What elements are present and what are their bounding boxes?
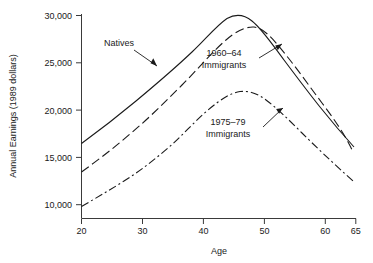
annotation-imm-1975-79-label-line2: Immigrants	[206, 129, 251, 139]
x-tick-label-40: 40	[198, 226, 208, 236]
x-tick-label-65: 65	[351, 226, 361, 236]
y-tick-label-25000: 25,000	[44, 58, 72, 68]
annotation-natives: Natives	[104, 38, 157, 66]
y-tick-label-15000: 15,000	[44, 153, 72, 163]
annotation-natives-label: Natives	[104, 38, 135, 48]
natives-curve	[82, 15, 355, 147]
earnings-age-profile-chart: 30,000 25,000 20,000 15,000 10,000 20 30…	[0, 0, 373, 263]
chart-figure: 30,000 25,000 20,000 15,000 10,000 20 30…	[0, 0, 373, 263]
y-axis: 30,000 25,000 20,000 15,000 10,000	[44, 11, 81, 218]
y-tick-label-10000: 10,000	[44, 200, 72, 210]
annotation-imm-1960-64: 1960–64 Immigrants	[202, 44, 282, 70]
annotation-imm-1960-64-label-line1: 1960–64	[206, 48, 241, 58]
annotation-natives-arrow-head	[151, 58, 158, 66]
x-axis-title: Age	[211, 246, 227, 256]
annotation-imm-1960-64-label-line2: Immigrants	[202, 60, 247, 70]
x-tick-label-50: 50	[259, 226, 269, 236]
imm-1975-79-curve	[82, 91, 354, 206]
x-axis: 20 30 40 50 60 65	[76, 219, 360, 237]
x-tick-label-30: 30	[137, 226, 147, 236]
x-tick-label-20: 20	[76, 226, 86, 236]
y-axis-title: Annual Earnings (1989 dollars)	[8, 54, 18, 178]
annotation-imm-1975-79: 1975–79 Immigrants	[206, 108, 283, 139]
annotation-imm-1975-79-label-line1: 1975–79	[210, 117, 245, 127]
x-tick-label-60: 60	[320, 226, 330, 236]
y-tick-label-20000: 20,000	[44, 106, 72, 116]
y-tick-label-30000: 30,000	[44, 11, 72, 21]
